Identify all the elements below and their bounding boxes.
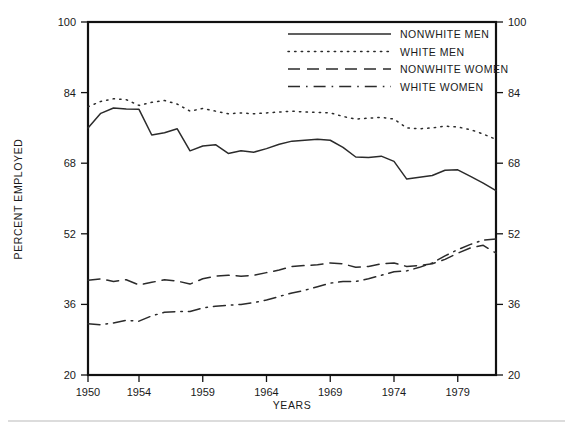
y-tick-label-left: 36 <box>64 298 76 310</box>
y-tick-label-right: 52 <box>508 228 520 240</box>
y-tick-label-right: 68 <box>508 157 520 169</box>
x-tick-label: 1979 <box>446 386 470 398</box>
legend-label-white-men: WHITE MEN <box>400 46 465 58</box>
x-tick-label: 1959 <box>191 386 215 398</box>
x-tick-label: 1969 <box>318 386 342 398</box>
y-tick-label-right: 100 <box>508 16 526 28</box>
legend-label-nonwhite-women: NONWHITE WOMEN <box>400 63 509 75</box>
chart-container: 2036526884100 2036526884100 195019541959… <box>0 0 573 424</box>
y-tick-label-left: 84 <box>64 87 76 99</box>
y-axis-title: PERCENT EMPLOYED <box>12 139 24 260</box>
legend-label-white-women: WHITE WOMEN <box>400 81 484 93</box>
line-chart: 2036526884100 2036526884100 195019541959… <box>0 0 573 424</box>
x-tick-label: 1964 <box>254 386 278 398</box>
y-tick-label-right: 84 <box>508 87 520 99</box>
y-tick-label-left: 52 <box>64 228 76 240</box>
x-tick-label: 1950 <box>76 386 100 398</box>
x-tick-label: 1954 <box>127 386 151 398</box>
legend-label-nonwhite-men: NONWHITE MEN <box>400 28 489 40</box>
y-tick-label-right: 36 <box>508 298 520 310</box>
x-tick-label: 1974 <box>382 386 406 398</box>
y-tick-label-left: 20 <box>64 369 76 381</box>
x-axis-title: YEARS <box>273 399 312 411</box>
y-tick-label-right: 20 <box>508 369 520 381</box>
y-tick-label-left: 100 <box>58 16 76 28</box>
y-tick-label-left: 68 <box>64 157 76 169</box>
